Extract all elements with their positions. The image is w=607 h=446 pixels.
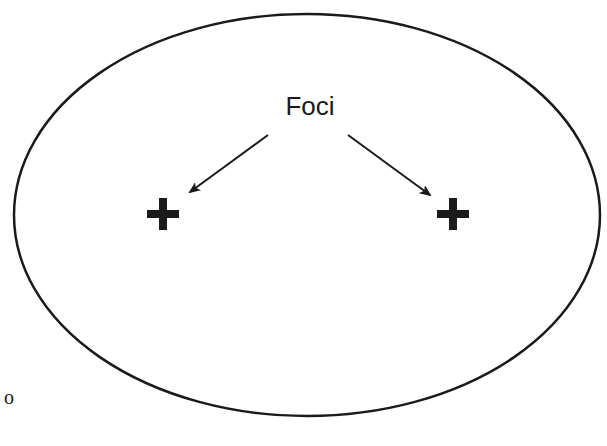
ellipse-foci-diagram: Foci o [0,0,607,446]
ellipse-outline [14,14,600,416]
right-focus-plus-icon [437,198,469,230]
arrow-to-right-focus [348,135,430,195]
foci-label: Foci [285,91,334,121]
arrow-to-left-focus [190,135,268,192]
left-focus-plus-icon [147,198,179,230]
stray-mark-o: o [4,386,14,408]
